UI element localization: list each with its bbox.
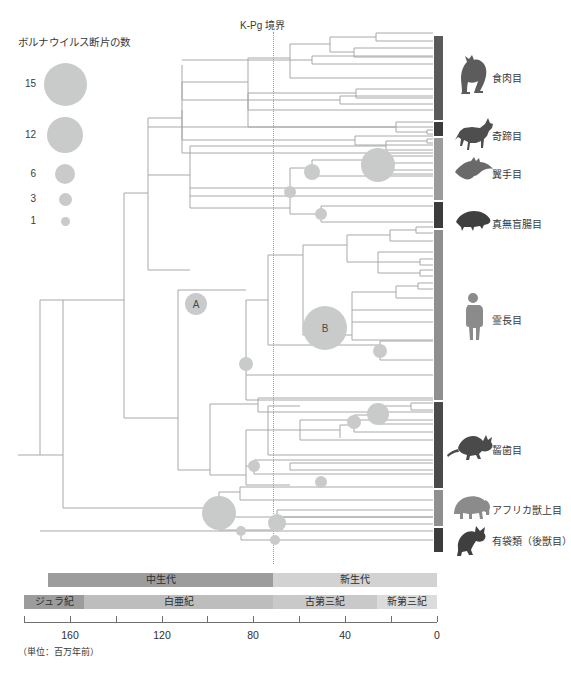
taxon-label-1: 奇蹄目 (492, 128, 522, 143)
bat-icon (455, 157, 493, 179)
cat-icon (461, 55, 486, 94)
mouse-icon (447, 435, 493, 460)
axis-tick-80 (253, 616, 254, 622)
horse-icon (453, 118, 493, 150)
axis-tick-label-160: 160 (50, 629, 90, 641)
era-segment-0: 中生代 (48, 573, 273, 587)
time-axis-line (24, 622, 437, 623)
axis-tick-label-0: 0 (417, 629, 457, 641)
axis-tick-140 (116, 616, 117, 622)
axis-tick-label-40: 40 (325, 629, 365, 641)
taxon-label-3: 真無盲腸目 (492, 216, 542, 231)
time-axis-unit-note: （単位：百万年前） (18, 645, 99, 658)
axis-tick-label-80: 80 (233, 629, 273, 641)
axis-tick-0 (437, 616, 438, 622)
axis-tick-20 (391, 616, 392, 622)
elephant-icon (454, 496, 490, 519)
axis-tick-40 (345, 616, 346, 622)
koala-icon (457, 526, 486, 556)
axis-tick-100 (207, 616, 208, 622)
period-segment-1: 白亜紀 (84, 595, 273, 609)
taxon-label-4: 霊長目 (492, 312, 522, 327)
era-segment-1: 新生代 (273, 573, 437, 587)
phylogenetic-tree-figure: ボルナウイルス断片の数 1512631 K-Pg 境界 (0, 0, 571, 675)
taxon-label-0: 食肉目 (492, 70, 522, 85)
human-icon (466, 293, 483, 340)
period-segment-2: 古第三紀 (273, 595, 377, 609)
axis-tick-label-120: 120 (142, 629, 182, 641)
taxon-label-2: 翼手目 (492, 166, 522, 181)
axis-tick-180 (24, 616, 25, 622)
axis-tick-120 (162, 616, 163, 622)
axis-tick-60 (299, 616, 300, 622)
taxon-label-6: アフリカ獣上目 (492, 502, 562, 517)
period-segment-3: 新第三紀 (377, 595, 437, 609)
taxon-label-5: 齧歯目 (492, 442, 522, 457)
shrew-icon (456, 211, 490, 231)
taxon-label-7: 有袋類（後獣目） (492, 533, 571, 548)
axis-tick-160 (70, 616, 71, 622)
period-segment-0: ジュラ紀 (24, 595, 84, 609)
